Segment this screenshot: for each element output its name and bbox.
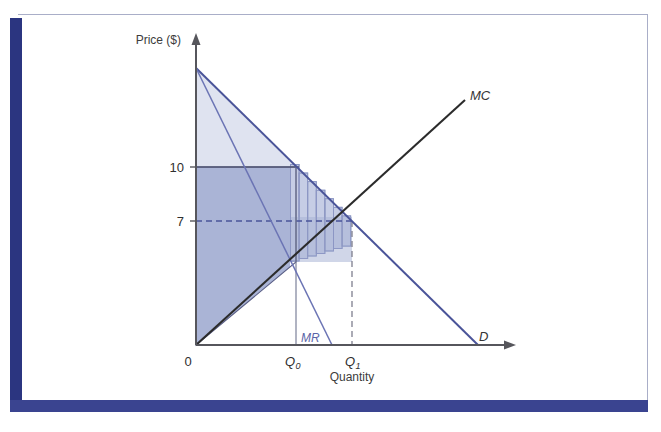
x-tick-label-q0: Q 0 <box>285 354 301 371</box>
mr-curve-label: MR <box>301 331 320 345</box>
svg-text:Q: Q <box>285 354 295 369</box>
deadweight-loss-bars <box>284 60 480 345</box>
svg-text:1: 1 <box>355 361 360 371</box>
economics-chart: Price ($) Quantity 0 10 7 Q 0 Q 1 MC D M… <box>0 0 661 432</box>
origin-label: 0 <box>184 354 191 369</box>
svg-text:0: 0 <box>295 361 300 371</box>
y-tick-label-10: 10 <box>170 160 184 175</box>
x-axis-label: Quantity <box>330 370 375 384</box>
y-axis-label: Price ($) <box>136 33 181 47</box>
y-tick-label-7: 7 <box>177 214 184 229</box>
y-axis-arrow <box>192 33 201 45</box>
figure-root: Price ($) Quantity 0 10 7 Q 0 Q 1 MC D M… <box>0 0 661 432</box>
x-axis-arrow <box>504 341 516 350</box>
demand-curve-label: D <box>479 329 488 344</box>
producer-surplus-region <box>196 167 296 345</box>
mc-curve-label: MC <box>470 88 491 103</box>
x-tick-label-q1: Q 1 <box>345 354 361 371</box>
svg-text:Q: Q <box>345 354 355 369</box>
